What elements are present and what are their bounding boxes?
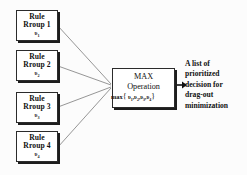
rule-group-3-title: Rule Rroup 3 [23, 95, 50, 112]
rule-group-1-node[interactable]: Rule Rroup 1 υ1 [16, 10, 58, 41]
rule-group-1-title: Rule Rroup 1 [23, 13, 50, 30]
output-description: A list of prioritized decision for drag-… [185, 59, 247, 111]
max-formula-args: υ1,υ2,υ3,υ4 [127, 94, 152, 100]
rule-group-3-symbol: υ3 [34, 112, 39, 122]
rule-group-4-title: Rule Rroup 4 [23, 134, 50, 151]
rule-group-4-symbol: υ4 [34, 151, 39, 161]
max-operation-title: MAX Operation [127, 72, 160, 91]
rule-group-3-node[interactable]: Rule Rroup 3 υ3 [16, 92, 58, 123]
rule-group-2-title: Rule Rroup 2 [23, 53, 50, 70]
rule-group-2-node[interactable]: Rule Rroup 2 υ2 [16, 50, 58, 81]
rule-group-4-node[interactable]: Rule Rroup 4 υ4 [16, 131, 58, 162]
max-operation-node[interactable]: MAX Operation max{ υ1,υ2,υ3,υ4} [112, 68, 175, 108]
rule-group-1-symbol: υ1 [34, 30, 39, 40]
max-operation-formula: max{ υ1,υ2,υ3,υ4} [111, 93, 177, 104]
flow-diagram-canvas: Rule Rroup 1 υ1 Rule Rroup 2 υ2 Rule Rro… [0, 0, 247, 175]
rule-group-2-symbol: υ2 [34, 70, 39, 80]
